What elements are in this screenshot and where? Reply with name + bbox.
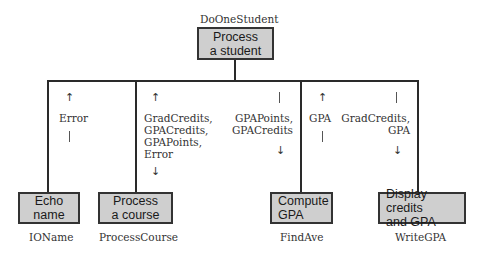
- box-label-line1: Display credits: [386, 187, 464, 215]
- connector-ioname: [47, 80, 49, 192]
- param-error: Error: [144, 148, 173, 161]
- root-label-line2: a student: [210, 44, 261, 58]
- box-label-line1: Compute: [278, 194, 329, 208]
- root-box-process-student: Process a student: [197, 27, 274, 60]
- structure-chart: DoOneStudent Process a student ↑ Error ↑…: [0, 0, 486, 254]
- root-module-name: DoOneStudent: [200, 13, 278, 26]
- arrow-down-icon: ↓: [151, 166, 160, 177]
- param-gradcredits: GradCredits,: [144, 112, 213, 125]
- flow-tick: [279, 92, 280, 103]
- box-label-line2: name: [33, 208, 64, 222]
- arrow-up-icon: ↑: [318, 92, 327, 103]
- box-label-line2: GPA: [278, 208, 303, 222]
- box-label-line2: and GPA: [386, 215, 436, 229]
- arrow-up-icon: ↑: [65, 92, 74, 103]
- box-label-line2: a course: [112, 208, 160, 222]
- flow-tick: [396, 92, 397, 103]
- arrow-up-icon: ↑: [151, 92, 160, 103]
- param-gpapoints: GPAPoints,: [144, 136, 202, 149]
- box-echo-name: Echo name: [18, 192, 80, 224]
- arrow-down-icon: ↓: [393, 145, 402, 156]
- connector-processcourse: [135, 80, 137, 192]
- box-process-course: Process a course: [98, 192, 173, 224]
- box-display-credits-gpa: Display credits and GPA: [378, 192, 466, 224]
- param-gpa: GPA: [388, 124, 410, 137]
- arrow-down-icon: ↓: [276, 145, 285, 156]
- connector-writegpa: [417, 80, 419, 192]
- param-error: Error: [59, 112, 88, 125]
- root-connector: [234, 60, 236, 80]
- param-gradcredits: GradCredits,: [341, 112, 410, 125]
- module-name-ioname: IOName: [29, 231, 73, 244]
- flow-tick: [69, 131, 70, 142]
- module-name-findave: FindAve: [280, 231, 323, 244]
- param-gpa: GPA: [309, 112, 331, 125]
- param-gpacredits: GPACredits,: [144, 124, 208, 137]
- module-name-processcourse: ProcessCourse: [99, 231, 178, 244]
- param-gpacredits: GPACredits: [232, 124, 293, 137]
- flow-tick: [322, 131, 323, 142]
- box-label-line1: Process: [113, 194, 158, 208]
- module-name-writegpa: WriteGPA: [395, 231, 446, 244]
- box-label-line1: Echo: [35, 194, 64, 208]
- horizontal-bus: [47, 80, 418, 82]
- root-label-line1: Process: [213, 30, 258, 44]
- param-gpapoints: GPAPoints,: [235, 112, 293, 125]
- connector-findave: [300, 80, 302, 192]
- box-compute-gpa: Compute GPA: [270, 192, 333, 224]
